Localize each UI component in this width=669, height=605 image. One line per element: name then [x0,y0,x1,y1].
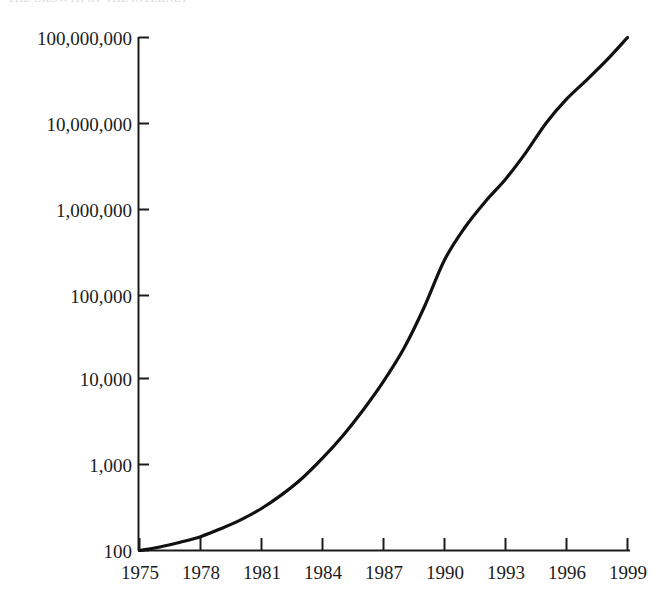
x-tick-label: 1987 [349,563,419,582]
data-series-line [140,38,628,551]
y-tick-label: 10,000 [0,370,132,389]
x-tick-label: 1993 [471,563,541,582]
y-tick-label: 100,000,000 [0,29,132,48]
chart-figure: THE GROWTH OF THE INTERNET [0,0,669,605]
y-tick-label: 100,000 [0,287,132,306]
x-tick-label: 1978 [166,563,236,582]
x-tick-label: 1990 [410,563,480,582]
y-tick-marks [139,38,150,551]
x-tick-label: 1996 [532,563,602,582]
y-tick-label: 1,000,000 [0,201,132,220]
y-tick-label: 10,000,000 [0,115,132,134]
y-tick-label: 100 [0,542,132,561]
x-tick-label: 1999 [593,563,663,582]
x-tick-label: 1975 [105,563,175,582]
x-tick-marks [140,538,628,551]
y-tick-label: 1,000 [0,456,132,475]
x-tick-label: 1981 [227,563,297,582]
x-tick-label: 1984 [288,563,358,582]
